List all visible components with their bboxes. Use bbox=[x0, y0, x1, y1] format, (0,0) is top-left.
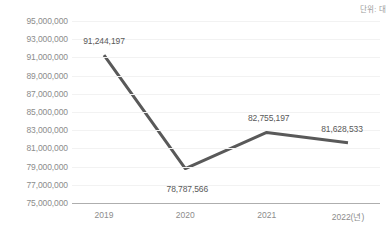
y-axis-tick-label: 85,000,000 bbox=[26, 107, 68, 117]
y-axis-tick-label: 79,000,000 bbox=[26, 162, 68, 172]
gridline bbox=[72, 57, 380, 58]
x-axis-tick-label: 2022(년) bbox=[332, 210, 365, 222]
data-point-label: 91,244,197 bbox=[83, 36, 125, 46]
x-axis-tick-label: 2020 bbox=[176, 210, 195, 220]
data-point-label: 78,787,566 bbox=[167, 184, 209, 194]
y-axis-tick-label: 77,000,000 bbox=[26, 180, 68, 190]
y-axis-tick-label: 95,000,000 bbox=[26, 16, 68, 26]
y-axis-tick-label: 83,000,000 bbox=[26, 125, 68, 135]
y-axis-tick-label: 93,000,000 bbox=[26, 34, 68, 44]
x-axis-tick-label: 2019 bbox=[95, 210, 114, 220]
gridline bbox=[72, 167, 380, 168]
gridline bbox=[72, 94, 380, 95]
gridline bbox=[72, 185, 380, 186]
gridline bbox=[72, 112, 380, 113]
gridline bbox=[72, 76, 380, 77]
gridline bbox=[72, 21, 380, 22]
gridline bbox=[72, 148, 380, 149]
line-chart: 단위: 대 95,000,00093,000,00091,000,00089,0… bbox=[0, 0, 392, 236]
y-axis-tick-label: 75,000,000 bbox=[26, 198, 68, 208]
plot-area: 2019202020212022(년)91,244,19778,787,5668… bbox=[72, 0, 392, 236]
data-point-label: 82,755,197 bbox=[248, 113, 290, 123]
x-axis-tick-label: 2021 bbox=[257, 210, 276, 220]
data-point-label: 81,628,533 bbox=[321, 124, 363, 134]
y-axis: 95,000,00093,000,00091,000,00089,000,000… bbox=[0, 0, 72, 236]
y-axis-tick-label: 89,000,000 bbox=[26, 71, 68, 81]
y-axis-tick-label: 87,000,000 bbox=[26, 89, 68, 99]
y-axis-tick-label: 81,000,000 bbox=[26, 143, 68, 153]
y-axis-tick-label: 91,000,000 bbox=[26, 52, 68, 62]
